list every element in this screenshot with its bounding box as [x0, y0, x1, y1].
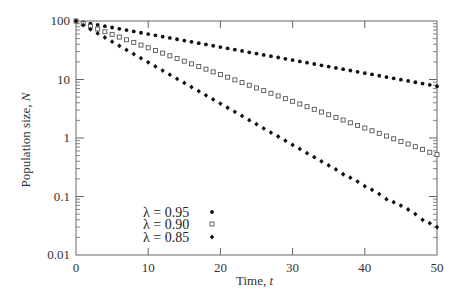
series-0: [74, 19, 439, 88]
series-1: [74, 19, 439, 157]
axis-tick-labels: 010203040501001010.10.01: [47, 13, 443, 275]
x-tick-label: 50: [431, 260, 444, 275]
plot-border: [76, 21, 437, 255]
series-2: [74, 19, 439, 230]
y-tick-label: 0.1: [54, 189, 70, 204]
population-chart: 010203040501001010.10.01 Time, t Populat…: [0, 0, 459, 303]
axis-ticks: [76, 21, 437, 255]
y-tick-label: 1: [64, 130, 71, 145]
y-tick-label: 0.01: [47, 247, 70, 262]
y-tick-label: 100: [51, 13, 71, 28]
x-tick-label: 40: [358, 260, 371, 275]
x-axis-label: Time, t: [236, 273, 273, 288]
x-tick-label: 20: [214, 260, 227, 275]
x-tick-label: 10: [142, 260, 155, 275]
plot-frame: [76, 21, 437, 255]
x-tick-label: 0: [73, 260, 80, 275]
y-tick-label: 10: [57, 72, 70, 87]
legend: λ = 0.95 λ = 0.90 λ = 0.85: [143, 205, 214, 245]
y-axis-label: Population size, N: [18, 91, 33, 187]
data-series: [74, 19, 439, 230]
legend-markers: [210, 210, 214, 239]
x-tick-label: 30: [286, 260, 299, 275]
legend-label-2: λ = 0.85: [143, 230, 189, 245]
